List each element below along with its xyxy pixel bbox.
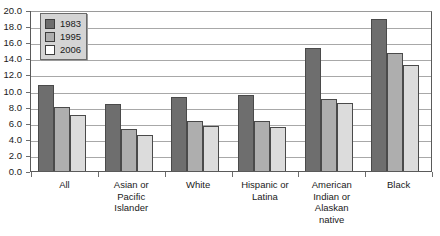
- bar-group: [364, 12, 431, 171]
- bar-group: [98, 12, 165, 171]
- bar: [238, 95, 254, 171]
- bar: [270, 127, 286, 171]
- bar: [137, 135, 153, 171]
- y-axis-tick-label: 18.0: [4, 22, 23, 32]
- x-axis-category-label: White: [165, 179, 232, 225]
- bar: [54, 107, 70, 171]
- legend-swatch-icon: [45, 32, 55, 42]
- bar: [337, 103, 353, 171]
- y-axis-tick-label: 20.0: [4, 6, 23, 16]
- bar: [38, 85, 54, 171]
- x-axis-tick-mark: [165, 172, 166, 177]
- legend-swatch-icon: [45, 45, 55, 55]
- x-axis-tick-mark: [298, 172, 299, 177]
- bar: [254, 121, 270, 171]
- x-axis-tick-mark: [365, 172, 366, 177]
- x-axis-labels: AllAsian orPacificIslanderWhiteHispanic …: [31, 179, 432, 225]
- bar: [105, 104, 121, 171]
- bar: [371, 19, 387, 171]
- x-axis-category-label: AmericanIndian orAlaskannative: [298, 179, 365, 225]
- bar: [403, 65, 419, 171]
- x-axis-tick-mark: [98, 172, 99, 177]
- y-axis-tick-label: 12.0: [4, 71, 23, 81]
- bar: [305, 48, 321, 171]
- x-axis-tick-mark: [31, 172, 32, 177]
- legend-item: 2006: [45, 43, 81, 56]
- bar: [70, 115, 86, 171]
- bar: [187, 121, 203, 171]
- legend-item-label: 1995: [60, 32, 81, 42]
- y-axis-tick-label: 10.0: [4, 87, 23, 97]
- x-axis-category-label: All: [31, 179, 98, 225]
- bar: [203, 126, 219, 171]
- x-axis-tick-mark: [232, 172, 233, 177]
- y-axis-tick-label: 2.0: [9, 151, 22, 161]
- bar-group: [164, 12, 231, 171]
- chart-legend: 198319952006: [40, 13, 87, 60]
- bar: [387, 53, 403, 171]
- x-axis-category-label: Hispanic orLatina: [231, 179, 298, 225]
- y-axis-tick-label: 4.0: [9, 135, 22, 145]
- legend-item: 1983: [45, 17, 81, 30]
- y-axis-tick-mark: [26, 172, 30, 173]
- bar: [121, 129, 137, 171]
- legend-item-label: 2006: [60, 45, 81, 55]
- y-axis: 20.018.016.014.012.010.08.06.04.02.00.0: [0, 0, 30, 236]
- x-axis-tick-mark: [432, 172, 433, 177]
- y-axis-tick-label: 8.0: [9, 103, 22, 113]
- bar-chart: 20.018.016.014.012.010.08.06.04.02.00.0 …: [0, 0, 440, 236]
- x-axis-category-label: Asian orPacificIslander: [98, 179, 165, 225]
- y-axis-tick-label: 14.0: [4, 55, 23, 65]
- bar: [321, 99, 337, 171]
- y-axis-tick-label: 16.0: [4, 38, 23, 48]
- y-axis-tick-label: 6.0: [9, 119, 22, 129]
- legend-item-label: 1983: [60, 19, 81, 29]
- bar: [171, 97, 187, 171]
- x-axis-ticks: [31, 172, 432, 177]
- legend-item: 1995: [45, 30, 81, 43]
- plot-area: [31, 11, 432, 172]
- bar-group: [298, 12, 365, 171]
- bar-group: [231, 12, 298, 171]
- x-axis-category-label: Black: [365, 179, 432, 225]
- bar-groups: [31, 12, 431, 171]
- legend-swatch-icon: [45, 19, 55, 29]
- y-axis-tick-label: 0.0: [9, 167, 22, 177]
